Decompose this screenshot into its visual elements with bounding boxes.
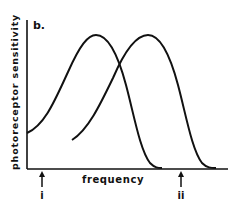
arrow-i-icon [39, 171, 45, 187]
arrow-ii-icon [178, 171, 184, 187]
sensitivity-chart: b. frequency photoreceptor sensitivity i… [0, 0, 240, 208]
curve-receptor-2 [72, 35, 216, 168]
curve-receptor-1 [27, 35, 162, 168]
arrow-ii-label: ii [178, 190, 185, 201]
x-axis-label: frequency [82, 174, 144, 185]
arrow-i-label: i [40, 190, 43, 201]
y-axis-label: photoreceptor sensitivity [9, 14, 20, 170]
panel-label: b. [33, 19, 45, 32]
